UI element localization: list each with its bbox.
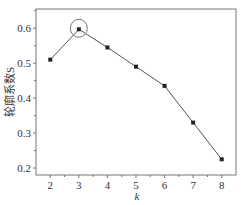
x-axis-ticks: 2345678 (48, 175, 225, 191)
x-tick-label: 6 (162, 179, 168, 191)
data-series (48, 27, 223, 161)
y-tick-label: 0.4 (17, 92, 31, 104)
plot-frame (36, 9, 236, 175)
series-line (50, 29, 221, 159)
y-tick-label: 0.5 (17, 57, 31, 69)
y-axis-title: 轮廓系数S (3, 67, 16, 117)
y-axis-ticks: 0.20.30.40.50.6 (17, 11, 36, 174)
x-axis-title: k (135, 190, 141, 202)
data-point-marker (105, 45, 109, 49)
plot-border (36, 9, 236, 175)
x-tick-label: 2 (48, 179, 54, 191)
data-point-marker (134, 65, 138, 69)
x-tick-label: 3 (76, 179, 82, 191)
silhouette-chart: 0.20.30.40.50.6 2345678 轮廓系数S k (0, 0, 245, 205)
data-point-marker (48, 58, 52, 62)
y-tick-label: 0.6 (17, 22, 31, 34)
data-point-marker (220, 157, 224, 161)
y-tick-label: 0.3 (17, 127, 31, 139)
y-tick-label: 0.2 (17, 162, 31, 174)
data-point-marker (191, 121, 195, 125)
x-tick-label: 8 (219, 179, 225, 191)
x-tick-label: 4 (105, 179, 111, 191)
data-point-marker (163, 84, 167, 88)
x-tick-label: 7 (190, 179, 196, 191)
data-point-marker (77, 27, 81, 31)
